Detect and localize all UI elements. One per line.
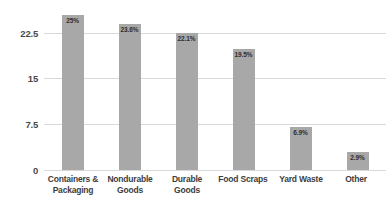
y-tick-label-15: 15 bbox=[0, 73, 38, 84]
gridline-0 bbox=[44, 170, 386, 171]
bar[interactable]: 25% bbox=[62, 15, 84, 170]
bar[interactable]: 2.9% bbox=[347, 152, 369, 170]
bar[interactable]: 19.5% bbox=[233, 49, 255, 170]
category-label-line: Goods bbox=[101, 185, 159, 196]
category-label-line: Nondurable bbox=[101, 174, 159, 185]
bar-value-label: 19.5% bbox=[235, 51, 253, 58]
bar-value-label: 22.1% bbox=[178, 35, 196, 42]
category-label-line: Packaging bbox=[44, 185, 102, 196]
category-label-line: Yard Waste bbox=[272, 174, 330, 185]
bar-slot: 2.9% bbox=[329, 10, 386, 170]
bar-value-label: 25% bbox=[66, 17, 79, 24]
bar-value-label: 6.9% bbox=[293, 129, 307, 136]
y-tick-label-0: 0 bbox=[0, 165, 38, 176]
category-label-line: Containers & bbox=[44, 174, 102, 185]
category-label-nondurable-goods: Nondurable Goods bbox=[101, 174, 159, 196]
category-label-food-scraps: Food Scraps bbox=[214, 174, 272, 185]
category-label-line: Goods bbox=[158, 185, 216, 196]
bar-slot: 6.9% bbox=[272, 10, 329, 170]
plot-area: 25%23.6%22.1%19.5%6.9%2.9% bbox=[44, 10, 386, 170]
category-label-yard-waste: Yard Waste bbox=[272, 174, 330, 185]
y-tick-label-7-5: 7.5 bbox=[0, 119, 38, 130]
bar[interactable]: 6.9% bbox=[290, 127, 312, 170]
bar-slot: 19.5% bbox=[215, 10, 272, 170]
category-label-containers-packaging: Containers & Packaging bbox=[44, 174, 102, 196]
bar[interactable]: 22.1% bbox=[176, 33, 198, 170]
category-label-durable-goods: Durable Goods bbox=[158, 174, 216, 196]
category-label-line: Durable bbox=[158, 174, 216, 185]
y-tick-label-22-5: 22.5 bbox=[0, 28, 38, 39]
bar-value-label: 2.9% bbox=[350, 154, 364, 161]
bar-slot: 25% bbox=[44, 10, 101, 170]
category-label-other: Other bbox=[330, 174, 382, 185]
bar-slot: 22.1% bbox=[158, 10, 215, 170]
category-label-line: Other bbox=[330, 174, 382, 185]
bar[interactable]: 23.6% bbox=[119, 24, 141, 170]
bar-slot: 23.6% bbox=[101, 10, 158, 170]
category-label-line: Food Scraps bbox=[214, 174, 272, 185]
bar-value-label: 23.6% bbox=[121, 26, 139, 33]
bar-chart: 22.5 15 7.5 0 25%23.6%22.1%19.5%6.9%2.9%… bbox=[0, 0, 390, 215]
